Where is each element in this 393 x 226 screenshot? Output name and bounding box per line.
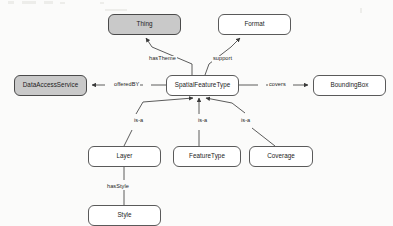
node-dataaccessservice[interactable]: DataAccessService [14,75,87,96]
node-label: BoundingBox [330,82,368,88]
edge-label-offeredBY: offeredBY [113,82,140,88]
node-format[interactable]: Format [218,14,291,35]
edge-label-isa-layer: is-a [133,118,144,124]
edge-layer [0,0,393,226]
edge-label-covers: covers [268,82,287,88]
edge-label-isa-coverage: is-a [240,118,251,124]
node-label: Format [244,21,264,27]
node-layer[interactable]: Layer [88,146,161,167]
node-coverage[interactable]: Coverage [249,146,313,167]
edge-label-support: support [212,56,233,62]
node-label: SpatialFeatureType [175,82,231,88]
node-style[interactable]: Style [88,205,161,226]
node-label: Style [117,212,131,218]
diagram-canvas: Thing Format DataAccessService SpatialFe… [0,0,393,226]
node-thing[interactable]: Thing [108,14,181,35]
node-label: Thing [136,21,152,27]
node-label: Coverage [267,153,295,159]
edge-label-hasStyle: hasStyle [106,184,130,190]
node-featuretype[interactable]: FeatureType [173,146,241,167]
node-label: DataAccessService [23,82,78,88]
node-label: FeatureType [189,153,225,159]
node-label: Layer [116,153,132,159]
edge-label-hasTheme: hasTheme [148,56,177,62]
node-boundingbox[interactable]: BoundingBox [313,75,386,96]
edge-label-isa-featuretype: is-a [197,118,208,124]
node-spatialfeaturetype[interactable]: SpatialFeatureType [166,75,239,96]
